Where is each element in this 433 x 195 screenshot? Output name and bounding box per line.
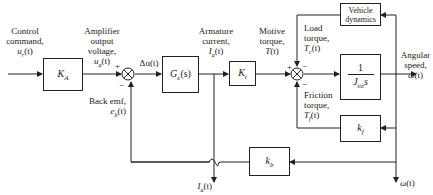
plant-denominator: Jtots: [353, 76, 368, 92]
kb-block: kb: [249, 147, 290, 176]
delta-u-label: Δu(t): [137, 58, 161, 68]
armature-current-label: Armature current, Ia(t): [196, 26, 236, 60]
kf-label: kf: [357, 122, 363, 136]
sum2-plus-sign: +: [287, 63, 292, 72]
plant-block: 1 Jtots: [340, 54, 381, 100]
vehicle-label-2: dynamics: [345, 15, 376, 24]
ia-output-label: Ia(t): [188, 181, 212, 195]
motive-torque-label: Motive torque, T(t): [255, 26, 289, 56]
vehicle-dynamics-block: Vehicle dynamics: [340, 3, 381, 26]
kb-label: kb: [266, 155, 274, 169]
ka-label: KA: [58, 68, 69, 82]
sum2-minus-bottom-sign: −: [302, 80, 307, 89]
sum1-minus-sign: −: [119, 81, 124, 90]
sum1-plus-sign: +: [115, 62, 120, 71]
ge-block: Ge(s): [162, 56, 199, 93]
omega-output-label: ω(t): [400, 178, 424, 188]
ge-label: Ge(s): [170, 68, 191, 82]
kt-block: Kt: [229, 61, 256, 86]
plant-numerator: 1: [358, 62, 363, 73]
load-torque-label: Load torque, Tc(t): [304, 23, 334, 57]
back-emf-line: [131, 82, 210, 162]
friction-torque-label: Friction torque, Tf(t): [304, 90, 336, 124]
kf-block: kf: [340, 115, 381, 142]
ka-block: KA: [43, 58, 83, 91]
kt-label: Kt: [238, 67, 247, 81]
back-emf-label: Back emf, eb(t): [86, 96, 126, 120]
fraction-bar: [348, 74, 374, 75]
vehicle-label-1: Vehicle: [349, 6, 373, 15]
control-command-label: Control command, ur(t): [4, 26, 46, 60]
angular-speed-label: Angular speed, ω(t): [398, 50, 433, 80]
sum2-minus-top-sign: −: [302, 62, 307, 71]
